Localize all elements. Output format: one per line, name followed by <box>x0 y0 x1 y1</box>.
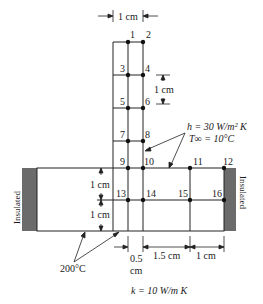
lower-thickness-label: 1 cm <box>90 209 110 220</box>
upper-thickness-label: 1 cm <box>90 179 110 190</box>
fin-width-label: 1 cm <box>118 11 138 22</box>
spacing-1-5-label: 1.5 cm <box>153 250 180 261</box>
node-13 <box>126 198 130 202</box>
left-insulation-block <box>22 168 37 231</box>
spacing-1-label: 1 cm <box>196 250 216 261</box>
node-label-5: 5 <box>120 96 125 107</box>
base-temperature-pointers <box>74 232 119 262</box>
node-label-1: 1 <box>130 29 135 40</box>
node-label-4: 4 <box>145 63 150 74</box>
half-spacing-value: 0.5 <box>130 253 143 264</box>
node-label-3: 3 <box>120 63 125 74</box>
node-label-2: 2 <box>146 29 151 40</box>
node-5 <box>126 106 130 110</box>
node-label-14: 14 <box>146 188 156 199</box>
node-9 <box>126 166 130 170</box>
thermal-conductivity-label: k = 10 W/m K <box>131 285 189 296</box>
node-label-8: 8 <box>145 129 150 140</box>
half-spacing-unit: cm <box>130 265 142 276</box>
node-label-9: 9 <box>120 156 125 167</box>
right-insulated-label: Insulated <box>238 176 248 209</box>
node-2 <box>141 40 145 44</box>
heat-transfer-grid-diagram: 1 2 3 4 5 6 7 8 9 10 11 12 13 14 15 16 1… <box>0 0 263 304</box>
convection-coefficient-label: h = 30 W/m² K <box>187 121 248 132</box>
left-insulated-label: Insulated <box>12 191 22 224</box>
vertical-spacing-label: 1 cm <box>154 84 174 95</box>
node-label-7: 7 <box>120 129 125 140</box>
node-label-11: 11 <box>193 156 203 167</box>
node-label-15: 15 <box>178 188 188 199</box>
node-7 <box>126 139 130 143</box>
base-temperature-label: 200°C <box>60 263 86 274</box>
node-label-16: 16 <box>212 188 222 199</box>
node-11 <box>188 166 192 170</box>
ambient-temperature-label: T∞ = 10°C <box>189 133 234 144</box>
node-3 <box>126 73 130 77</box>
node-16 <box>222 198 226 202</box>
node-label-13: 13 <box>116 188 126 199</box>
node-label-6: 6 <box>145 96 150 107</box>
node-label-12: 12 <box>223 156 233 167</box>
node-14 <box>141 198 145 202</box>
node-15 <box>188 198 192 202</box>
node-1 <box>126 40 130 44</box>
node-label-10: 10 <box>144 156 154 167</box>
